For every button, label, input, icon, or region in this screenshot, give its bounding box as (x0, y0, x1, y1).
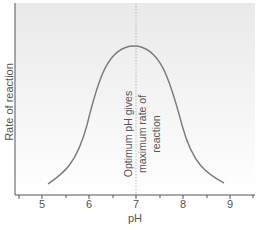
x-tick-label-8: 8 (176, 198, 190, 210)
x-tick-label-5: 5 (35, 198, 49, 210)
optimum-annotation: Optimum pH gives maximum rate of reactio… (121, 84, 163, 184)
x-axis-label: pH (128, 212, 142, 224)
x-tick-label-6: 6 (82, 198, 96, 210)
x-tick-label-7: 7 (129, 198, 143, 210)
y-axis-label: Rate of reaction (3, 57, 15, 147)
x-tick-label-9: 9 (223, 198, 237, 210)
annotation-line-1: Optimum pH gives (121, 84, 135, 184)
annotation-line-2: maximum rate of reaction (135, 84, 163, 184)
